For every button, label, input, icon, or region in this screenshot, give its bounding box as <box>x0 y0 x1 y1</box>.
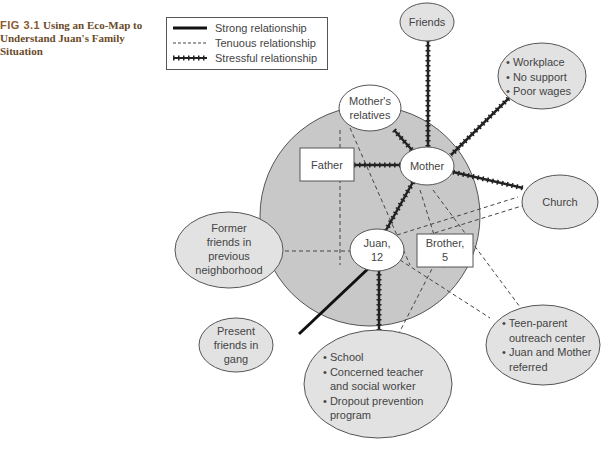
legend-strong: Strong relationship <box>173 21 307 35</box>
label-friends: Friends <box>400 15 454 29</box>
label-former-friends: Former friends in previous neighborhood <box>178 221 280 277</box>
stressful-line-swatch <box>173 55 207 61</box>
label-workplace: • Workplace • No support • Poor wages <box>506 55 571 99</box>
label-school: • School • Concerned teacher and social … <box>323 350 423 423</box>
strong-line-swatch <box>173 25 207 31</box>
label-present-friends: Present friends in gang <box>204 324 268 366</box>
legend-tenuous: Tenuous relationship <box>173 36 316 50</box>
label-father: Father <box>300 158 354 172</box>
label-brother: Brother, 5 <box>417 236 473 264</box>
legend-stressful: Stressful relationship <box>173 51 317 65</box>
label-juan: Juan, 12 <box>350 236 404 264</box>
label-mothers-relatives: Mother's relatives <box>340 94 400 122</box>
tenuous-line-swatch <box>173 40 207 46</box>
label-teen-parent: • Teen-parent outreach center • Juan and… <box>502 316 591 374</box>
label-mother: Mother <box>400 159 454 173</box>
label-church: Church <box>522 195 598 209</box>
legend: Strong relationship Tenuous relationship… <box>166 17 328 70</box>
family-circle <box>260 106 480 326</box>
